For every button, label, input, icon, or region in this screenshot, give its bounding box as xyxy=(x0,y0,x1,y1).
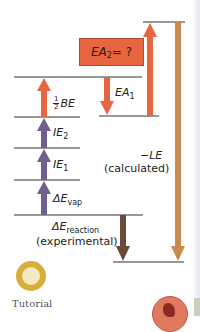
ea1-label-main: EA xyxy=(115,86,129,99)
ie2-label-sub: 2 xyxy=(63,132,68,141)
ea1-arrow xyxy=(100,77,114,115)
ie2-arrow xyxy=(37,118,51,148)
minus-le-label-main: −LE xyxy=(140,149,162,162)
ie2-label-main: IE xyxy=(53,126,63,139)
ea2-arrow xyxy=(143,23,157,116)
half-be-arrow xyxy=(37,78,51,117)
e-reaction-arrow xyxy=(116,215,130,261)
e-vap-label-sub: vap xyxy=(67,198,82,207)
tutorial-icon-glyph xyxy=(22,267,40,285)
e-reaction-label-main: ΔE xyxy=(52,220,66,233)
ie1-arrow xyxy=(37,149,51,180)
tutorial-icon[interactable] xyxy=(16,261,46,291)
half-be-label: 12BE xyxy=(53,96,75,111)
ie1-label-main: IE xyxy=(53,158,63,171)
ie2-label: IE2 xyxy=(53,127,68,140)
ea2-unknown-box: EA2 = ? xyxy=(79,38,144,66)
minus-le-note: (calculated) xyxy=(104,163,169,175)
half-fraction: 12 xyxy=(53,96,59,111)
e-vap-label-main: ΔE xyxy=(53,192,67,205)
ie1-label: IE1 xyxy=(53,159,68,172)
corner-media-glyph xyxy=(163,303,175,317)
be-label-main: BE xyxy=(60,97,75,110)
minus-le-arrow xyxy=(171,22,185,261)
ie1-label-sub: 1 xyxy=(63,164,68,173)
ea2-box-rest: = ? xyxy=(112,45,132,59)
e-reaction-label-sub: reaction xyxy=(66,226,99,235)
corner-media-icon[interactable] xyxy=(152,296,188,332)
ea1-label: EA1 xyxy=(115,87,135,100)
tutorial-label[interactable]: Tutorial xyxy=(12,298,52,309)
e-vap-label: ΔEvap xyxy=(53,193,82,206)
e-vap-arrow xyxy=(37,181,51,215)
e-reaction-note: (experimental) xyxy=(36,236,118,248)
ea2-box-label: EA xyxy=(91,45,107,59)
minus-le-label: −LE xyxy=(140,150,162,162)
e-reaction-label: ΔEreaction xyxy=(52,221,99,234)
ea1-label-sub: 1 xyxy=(129,92,134,101)
ea2-box-sub: 2 xyxy=(107,51,112,60)
